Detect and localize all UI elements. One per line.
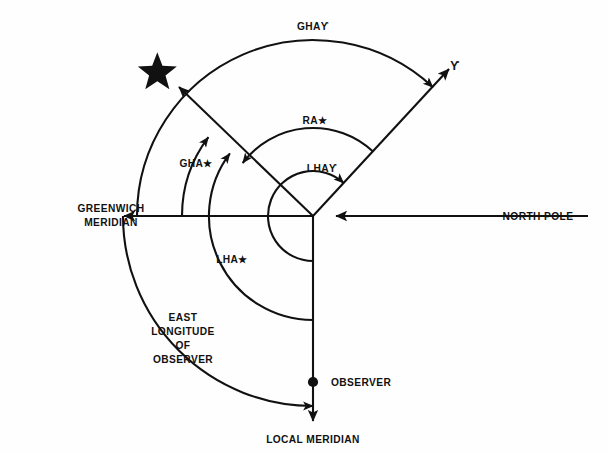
diagram-canvas: GHAϒ ϒ RA★ LHAϒ GHA★ LHA★ GREENWICH MERI… bbox=[0, 0, 608, 453]
label-east-longitude-line3: OF bbox=[176, 340, 191, 351]
label-gha-aries: GHAϒ bbox=[297, 21, 329, 32]
arc-ra-star bbox=[243, 128, 373, 163]
aries-icon: ϒ bbox=[450, 59, 460, 73]
observer-dot-icon bbox=[308, 377, 318, 387]
label-east-longitude-line4: OBSERVER bbox=[153, 354, 213, 365]
label-ra-star: RA★ bbox=[303, 115, 328, 126]
label-greenwich-meridian-line2: MERIDIAN bbox=[84, 217, 138, 228]
aries-direction-ray bbox=[313, 69, 449, 216]
label-east-longitude-line2: LONGITUDE bbox=[151, 326, 215, 337]
celestial-hour-angle-diagram: GHAϒ ϒ RA★ LHAϒ GHA★ LHA★ GREENWICH MERI… bbox=[0, 0, 608, 453]
arc-lha-star bbox=[209, 153, 313, 320]
label-greenwich-meridian-line1: GREENWICH bbox=[78, 203, 145, 214]
label-gha-star: GHA★ bbox=[179, 158, 212, 169]
label-local-meridian: LOCAL MERIDIAN bbox=[266, 434, 360, 445]
label-east-longitude-line1: EAST bbox=[169, 312, 198, 323]
star-icon bbox=[138, 52, 177, 89]
label-north-pole: NORTH POLE bbox=[503, 211, 574, 222]
arc-east-longitude bbox=[123, 216, 313, 406]
label-lha-star: LHA★ bbox=[216, 254, 248, 265]
label-observer: OBSERVER bbox=[331, 377, 391, 388]
arc-gha-star bbox=[182, 137, 208, 216]
label-lha-aries: LHAϒ bbox=[307, 163, 337, 174]
